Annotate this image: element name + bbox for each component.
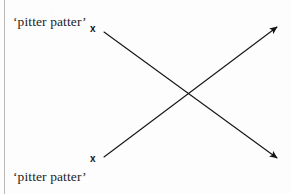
caption-bottom: ‘pitter patter’ bbox=[13, 170, 87, 184]
arrow-down-right bbox=[104, 32, 277, 158]
arrows-layer bbox=[0, 0, 291, 194]
x-marker-bottom: x bbox=[90, 154, 96, 164]
arrow-up-right bbox=[104, 27, 277, 157]
figure-canvas: ‘pitter patter’ x x ‘pitter patter’ bbox=[0, 0, 291, 194]
